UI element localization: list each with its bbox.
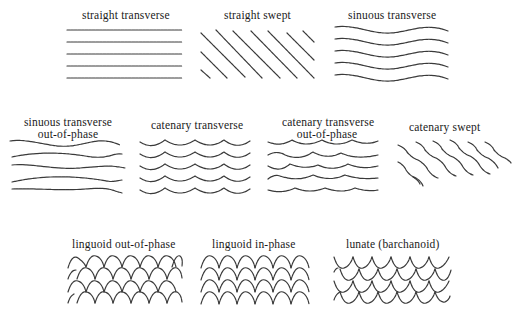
- lunate-diagram: [0, 0, 522, 310]
